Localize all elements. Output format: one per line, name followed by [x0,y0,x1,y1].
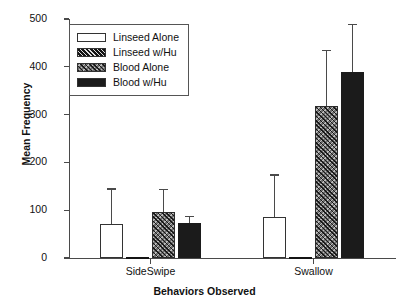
y-tick-label: 500 [7,13,47,23]
error-bar-stem [274,174,275,217]
x-tick-label: Swallow [269,266,359,277]
y-tick-label: 100 [7,204,47,214]
bar-sideswipe-linseed-w-hu [126,257,149,259]
error-bar [341,24,364,72]
error-bar-cap [159,189,168,190]
solid-black-swatch [77,78,106,87]
legend-item: Blood w/Hu [77,75,179,90]
legend-item-label: Blood Alone [113,62,169,73]
error-bar [178,216,201,223]
error-bar-stem [326,50,327,106]
x-tick-mark [150,259,151,264]
x-tick-mark [313,259,314,264]
bar-swallow-blood-w-hu [341,72,364,258]
error-bar-stem [163,189,164,212]
error-bar-stem [352,24,353,72]
error-bar [152,189,175,212]
error-bar [315,50,338,106]
bar-swallow-blood-alone [315,106,338,258]
chart-legend: Linseed AloneLinseed w/HuBlood AloneBloo… [69,24,189,96]
bar-swallow-linseed-w-hu [289,257,312,259]
y-tick-label: 0 [7,252,47,262]
legend-item: Blood Alone [77,60,179,75]
x-tick-label: SideSwipe [106,266,196,277]
error-bar-cap [107,188,116,189]
bar-sideswipe-blood-w-hu [178,223,201,258]
error-bar-cap [348,24,357,25]
legend-item: Linseed w/Hu [77,45,179,60]
legend-item-label: Linseed Alone [113,32,179,43]
bar-sideswipe-linseed-alone [100,224,123,258]
error-bar-cap [270,174,279,175]
legend-item-label: Blood w/Hu [113,77,167,88]
bar-sideswipe-blood-alone [152,212,175,258]
legend-item-label: Linseed w/Hu [113,47,177,58]
y-axis-title: Mean Frequency [20,54,32,194]
x-axis-title: Behaviors Observed [0,285,409,297]
error-bar [263,174,286,217]
error-bar [100,188,123,224]
error-bar-cap [185,216,194,217]
x-axis-line [69,258,396,259]
dark-hatch-swatch [77,48,106,57]
error-bar-cap [322,50,331,51]
bar-chart-figure: 0100200300400500 Mean Frequency SideSwip… [0,0,409,304]
grey-crosshatch-swatch [77,63,106,72]
open-swatch [77,33,106,42]
error-bar-stem [111,188,112,224]
bar-swallow-linseed-alone [263,217,286,258]
legend-item: Linseed Alone [77,30,179,45]
